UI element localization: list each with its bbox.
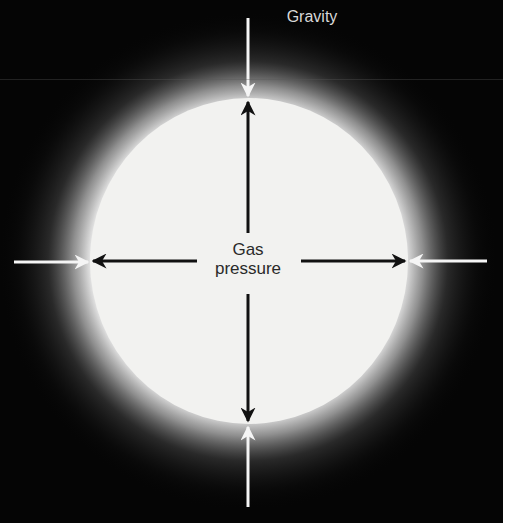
- gas-pressure-label-line2: pressure: [198, 259, 298, 278]
- scan-line-artifact: [0, 79, 503, 80]
- gas-pressure-label-line1: Gas: [198, 240, 298, 259]
- gravity-label: Gravity: [272, 8, 352, 26]
- gas-pressure-label: Gas pressure: [198, 240, 298, 278]
